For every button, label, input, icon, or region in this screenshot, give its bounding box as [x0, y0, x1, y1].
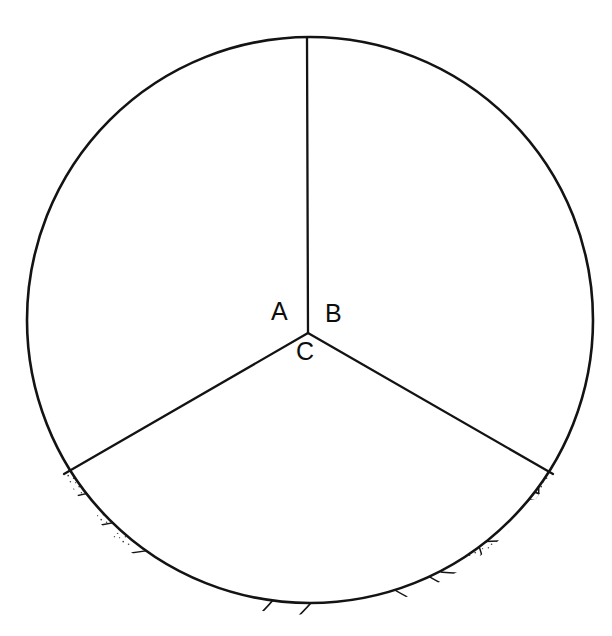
sector-label-c: C: [296, 337, 314, 365]
field-outline-circle: [27, 37, 593, 603]
microscopy-figure: A B C: [0, 0, 612, 636]
divider-up: [307, 38, 308, 333]
sector-label-b: B: [325, 299, 342, 327]
figure-canvas: A B C: [0, 0, 612, 636]
sector-label-a: A: [271, 297, 288, 325]
